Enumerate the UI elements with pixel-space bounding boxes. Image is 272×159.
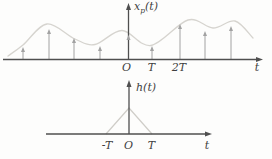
bottom-time-axis-arrowhead <box>205 132 212 137</box>
impulse-arrowhead <box>229 26 233 31</box>
top-2T-label: 2T <box>172 62 186 73</box>
bottom-T-label: T <box>148 140 155 151</box>
top-T-label: T <box>148 62 155 73</box>
impulse-arrowhead <box>21 47 25 52</box>
impulse-arrowhead <box>98 46 102 51</box>
bottom-t-axis-label: t <box>205 140 209 151</box>
bottom-value-axis-arrowhead <box>127 80 132 87</box>
top-t-axis-label: t <box>255 62 259 73</box>
impulse-arrowhead <box>203 31 207 36</box>
bottom-y-axis-label: h(t) <box>136 82 156 93</box>
top-origin-label: O <box>122 62 131 73</box>
signal-sampling-figure: xp(t) O T 2T t h(t) -T O T t <box>0 0 272 159</box>
top-value-axis-arrowhead <box>126 3 131 10</box>
bottom-origin-label: O <box>124 140 133 151</box>
envelope-curve <box>8 19 253 56</box>
impulse-arrowhead <box>150 46 154 51</box>
impulse-arrowhead <box>127 35 131 40</box>
top-y-axis-label: xp(t) <box>134 1 158 15</box>
bottom-negT-label: -T <box>102 140 113 151</box>
impulse-arrowhead <box>47 29 51 34</box>
figure-canvas <box>0 0 272 159</box>
